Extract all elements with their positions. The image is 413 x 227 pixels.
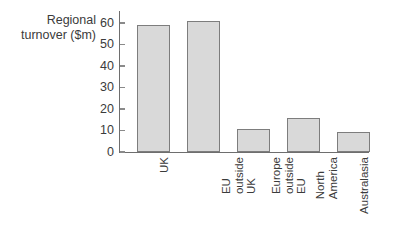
bar [187, 21, 220, 152]
bar-chart: Regional turnover ($m) 0102030405060 UKE… [0, 0, 413, 227]
y-axis-tick-label: 60 [88, 17, 114, 30]
bar [337, 132, 370, 152]
plot-area: 0102030405060 UKEU outside UKEurope outs… [0, 0, 413, 227]
y-axis-tick-label: 50 [88, 38, 114, 51]
y-axis-line [119, 11, 120, 153]
y-axis-tick-label: 40 [88, 60, 114, 73]
y-axis-tick [120, 87, 125, 88]
y-axis-tick-label: 10 [88, 124, 114, 137]
x-axis-category-label: Australasia [358, 157, 371, 214]
x-axis-category-label: North America [314, 157, 339, 199]
y-axis-tick-label: 0 [88, 146, 114, 159]
y-axis-tick [120, 130, 125, 131]
y-axis-tick [120, 108, 125, 109]
y-axis-tick [120, 65, 125, 66]
bar [237, 129, 270, 152]
x-axis-category-label: UK [158, 157, 171, 173]
x-axis-category-label: EU outside UK [220, 157, 258, 194]
y-axis-tick [120, 44, 125, 45]
bar [287, 118, 320, 152]
y-axis-tick-label: 20 [88, 103, 114, 116]
y-axis-tick [120, 22, 125, 23]
y-axis-tick [120, 151, 125, 152]
y-axis-tick-label: 30 [88, 81, 114, 94]
x-axis-category-label: Europe outside EU [270, 157, 308, 194]
bar [137, 25, 170, 152]
